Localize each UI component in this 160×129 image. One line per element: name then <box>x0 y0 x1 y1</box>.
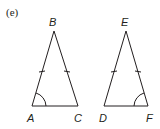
triangle-def-outline <box>104 31 148 106</box>
vertex-label-c: C <box>74 112 82 124</box>
vertex-label-e: E <box>121 16 129 28</box>
vertex-label-d: D <box>99 112 107 124</box>
tick-mark-bc <box>64 71 70 72</box>
angle-arc-a <box>36 93 46 106</box>
triangle-def: E D F <box>99 16 154 124</box>
part-label: (e) <box>6 6 19 19</box>
tick-mark-ab <box>39 71 45 72</box>
angle-arc-f <box>134 93 144 106</box>
vertex-label-f: F <box>146 112 154 124</box>
tick-mark-ef <box>135 71 141 72</box>
vertex-label-a: A <box>26 112 34 124</box>
triangle-abc: B A C <box>26 16 82 124</box>
tick-mark-de <box>111 71 117 72</box>
vertex-label-b: B <box>49 16 56 28</box>
congruence-diagram: (e) B A C E D F <box>0 0 160 129</box>
